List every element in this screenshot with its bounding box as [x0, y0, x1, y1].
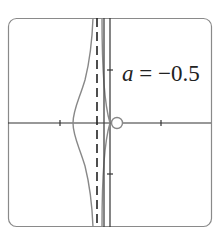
open-point-marker [112, 118, 123, 129]
parameter-name: a [122, 61, 134, 86]
parameter-annotation: a = −0.5 [122, 61, 200, 87]
equals-sign: = [134, 61, 158, 86]
parameter-value: −0.5 [158, 61, 200, 86]
function-plot [0, 0, 221, 240]
